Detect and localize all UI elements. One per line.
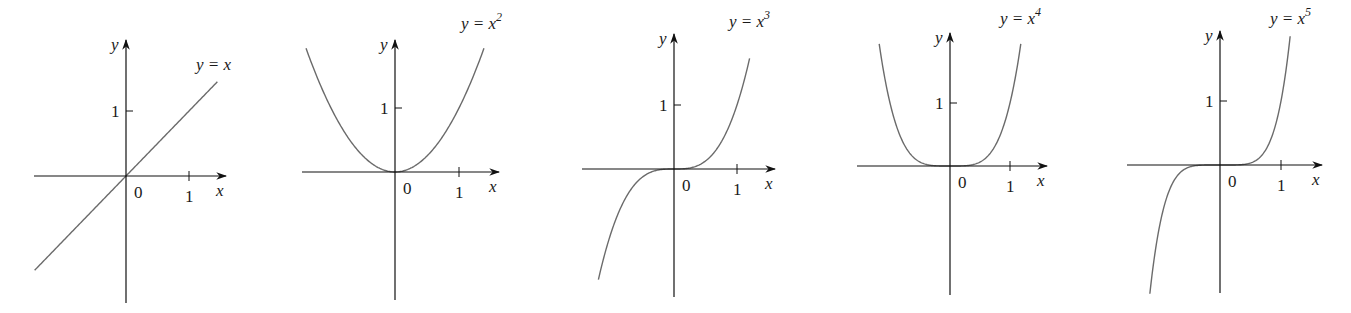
panel-y-eq-x-squared: y x 0 1 1 y = x2 (302, 10, 502, 300)
y-axis-label: y (109, 35, 119, 54)
y-axis-label: y (1203, 26, 1213, 45)
y-tick-label: 1 (1205, 92, 1214, 111)
curve-equation-label: y = x3 (727, 8, 770, 31)
panel-y-eq-x-fifth: y x 0 1 1 y = x5 (1127, 5, 1322, 294)
curve-equation-label: y = x2 (459, 10, 502, 33)
origin-label: 0 (1228, 172, 1237, 191)
power-functions-figure: y x 0 1 1 y = x y x 0 1 1 y = x2 y x 0 1… (0, 0, 1351, 313)
x-axis-label: x (764, 174, 773, 193)
y-axis-label: y (657, 29, 667, 48)
curve-equation-label: y = x (194, 55, 232, 74)
y-tick-label: 1 (380, 99, 389, 118)
x-tick-label: 1 (1277, 176, 1286, 195)
y-tick-label: 1 (659, 96, 668, 115)
curve-equation-label: y = x5 (1268, 5, 1311, 28)
curve-equation-label: y = x4 (998, 5, 1041, 28)
y-tick-label: 1 (935, 94, 944, 113)
x-tick-label: 1 (185, 187, 194, 206)
y-axis-label: y (933, 28, 943, 47)
x-axis-label: x (1311, 170, 1320, 189)
origin-label: 0 (134, 183, 143, 202)
panel-y-eq-x-cubed: y x 0 1 1 y = x3 (582, 8, 775, 297)
panel-y-eq-x: y x 0 1 1 y = x (34, 35, 232, 303)
origin-label: 0 (403, 179, 412, 198)
x-tick-label: 1 (733, 180, 742, 199)
x-tick-label: 1 (455, 183, 464, 202)
y-axis-label: y (378, 35, 388, 54)
origin-label: 0 (682, 176, 691, 195)
y-tick-label: 1 (111, 102, 120, 121)
x-axis-label: x (488, 177, 497, 196)
panel-y-eq-x-fourth: y x 0 1 1 y = x4 (857, 5, 1047, 295)
x-tick-label: 1 (1006, 177, 1015, 196)
x-axis-label: x (215, 181, 224, 200)
x-axis-label: x (1036, 171, 1045, 190)
origin-label: 0 (958, 173, 967, 192)
